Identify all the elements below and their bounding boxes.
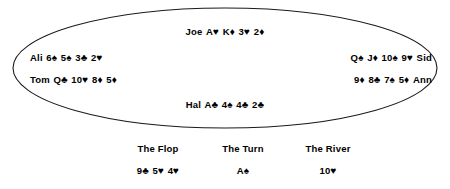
board-column-river: The River 10♥	[283, 143, 373, 176]
player-hand-sid: Q♠ J♦ 10♠ 9♥ Sid	[351, 52, 432, 64]
board-label-flop: The Flop	[113, 143, 203, 154]
card-rank: 10	[319, 165, 330, 176]
card-5-heart: 5♥	[153, 165, 165, 176]
card-3-heart: 3♥	[239, 26, 251, 37]
player-hand-ann: 9♦ 8♣ 7♠ 5♦ Ann	[354, 74, 432, 86]
card-Q-spade: Q♠	[351, 52, 364, 63]
card-7-spade: 7♠	[384, 74, 395, 85]
club-icon: ♣	[212, 99, 219, 111]
card-10-spade: 10♠	[382, 52, 398, 63]
card-rank: A	[237, 165, 244, 176]
player-name-hal: Hal	[186, 99, 201, 110]
card-9-club: 9♣	[137, 165, 149, 176]
card-10-heart: 10♥	[319, 165, 336, 176]
card-4-club: 4♣	[236, 99, 248, 110]
club-icon: ♣	[81, 52, 88, 64]
board-cards-flop: 9♣ 5♥ 4♥	[113, 165, 203, 176]
spade-icon: ♠	[244, 165, 250, 176]
card-2-club: 2♣	[252, 99, 264, 110]
card-J-diamond: J♦	[367, 52, 378, 63]
card-2-heart: 2♥	[91, 52, 103, 63]
player-name-sid: Sid	[417, 52, 432, 63]
card-A-heart: A♥	[206, 26, 219, 37]
card-rank: Q	[53, 74, 61, 85]
card-8-club: 8♣	[368, 74, 380, 85]
player-hand-ali: Ali 6♠ 5♠ 3♣ 2♥	[30, 52, 103, 64]
diamond-icon: ♦	[259, 26, 264, 38]
club-icon: ♣	[374, 74, 381, 86]
card-Q-club: Q♣	[53, 74, 67, 85]
board-column-flop: The Flop 9♣ 5♥ 4♥	[113, 143, 203, 176]
card-9-heart: 9♥	[401, 52, 413, 63]
card-6-spade: 6♠	[46, 52, 57, 63]
board-column-turn: The Turn A♠	[198, 143, 288, 176]
card-5-diamond: 5♦	[106, 74, 117, 85]
player-name-tom: Tom	[30, 74, 50, 85]
card-3-club: 3♣	[75, 52, 87, 63]
card-rank: 10	[382, 52, 393, 63]
diamond-icon: ♦	[112, 74, 117, 86]
card-4-heart: 4♥	[168, 165, 180, 176]
club-icon: ♣	[258, 99, 265, 111]
card-8-diamond: 8♦	[92, 74, 103, 85]
player-hand-tom: Tom Q♣ 10♥ 8♦ 5♦	[30, 74, 117, 86]
player-name-joe: Joe	[186, 26, 203, 37]
card-9-diamond: 9♦	[354, 74, 365, 85]
card-A-spade: A♠	[237, 165, 250, 176]
card-rank: A	[206, 26, 213, 37]
card-rank: A	[205, 99, 212, 110]
board-cards-river: 10♥	[283, 165, 373, 176]
board-cards-turn: A♠	[198, 165, 288, 176]
player-name-ali: Ali	[30, 52, 43, 63]
board-label-river: The River	[283, 143, 373, 154]
community-board: The Flop 9♣ 5♥ 4♥ The Turn A♠ The River …	[95, 143, 360, 187]
card-A-club: A♣	[205, 99, 219, 110]
club-icon: ♣	[142, 165, 149, 176]
card-K-diamond: K♦	[223, 26, 235, 37]
player-name-ann: Ann	[413, 74, 432, 85]
poker-table-diagram: Joe A♥ K♦ 3♥ 2♦ Ali 6♠ 5♠ 3♣ 2♥ Tom Q♣ 1…	[0, 0, 450, 189]
card-5-diamond: 5♦	[399, 74, 410, 85]
heart-icon: ♥	[330, 165, 336, 176]
card-2-diamond: 2♦	[254, 26, 265, 37]
player-hand-hal: Hal A♣ 4♠ 4♣ 2♣	[0, 99, 450, 111]
card-rank: Q	[351, 52, 359, 63]
board-label-turn: The Turn	[198, 143, 288, 154]
club-icon: ♣	[61, 74, 68, 86]
card-4-spade: 4♠	[222, 99, 233, 110]
card-5-spade: 5♠	[61, 52, 72, 63]
player-hand-joe: Joe A♥ K♦ 3♥ 2♦	[0, 26, 450, 38]
card-10-heart: 10♥	[71, 74, 88, 85]
card-rank: 10	[71, 74, 82, 85]
heart-icon: ♥	[173, 165, 179, 176]
heart-icon: ♥	[96, 52, 102, 64]
card-rank: K	[223, 26, 230, 37]
club-icon: ♣	[242, 99, 249, 111]
